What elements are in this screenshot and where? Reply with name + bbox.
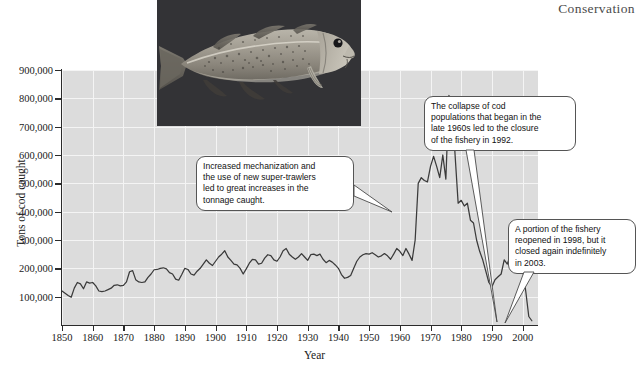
cod-fishery-figure: Conservation 100,000200,000300,000400,00… (0, 0, 629, 368)
annotation-leader-lines (0, 0, 629, 368)
